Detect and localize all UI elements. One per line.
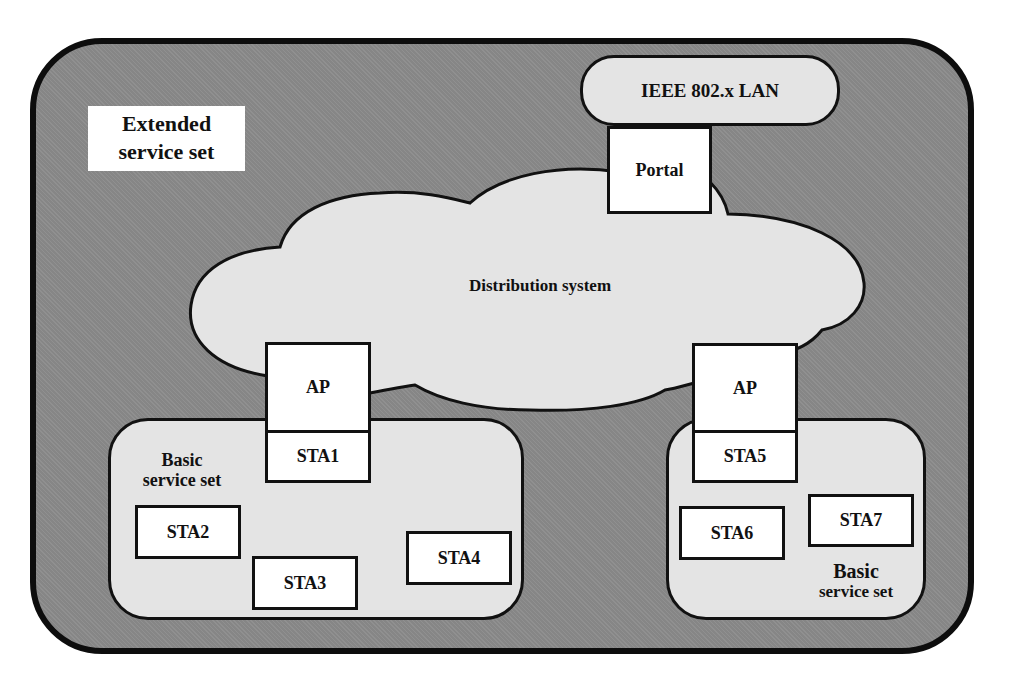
ap-right-label: AP [733, 378, 757, 399]
bss-left-label-line2: service set [126, 470, 238, 490]
sta3-label: STA3 [284, 573, 327, 594]
ap-left-label: AP [306, 377, 330, 398]
bss-right-label: Basic service set [800, 560, 912, 602]
portal-box: Portal [607, 126, 712, 214]
sta7-label: STA7 [840, 510, 883, 531]
sta6-label: STA6 [711, 523, 754, 544]
ap-left-box: AP [265, 342, 371, 433]
sta2-box: STA2 [135, 505, 241, 559]
sta4-box: STA4 [406, 531, 512, 585]
sta3-box: STA3 [252, 556, 358, 610]
distribution-system-label: Distribution system [400, 276, 680, 296]
sta4-label: STA4 [438, 548, 481, 569]
sta7-box: STA7 [808, 494, 914, 547]
bss-left-label-line1: Basic [126, 450, 238, 470]
sta1-label: STA1 [297, 446, 340, 467]
bss-right-label-line2: service set [800, 582, 912, 602]
bss-right-label-line1: Basic [800, 560, 912, 582]
portal-label: Portal [636, 160, 684, 181]
sta5-box: STA5 [692, 430, 798, 483]
sta2-label: STA2 [167, 522, 210, 543]
sta6-box: STA6 [679, 506, 785, 560]
sta1-box: STA1 [265, 430, 371, 483]
ap-right-box: AP [692, 343, 798, 433]
sta5-label: STA5 [724, 446, 767, 467]
bss-left-label: Basic service set [126, 450, 238, 490]
